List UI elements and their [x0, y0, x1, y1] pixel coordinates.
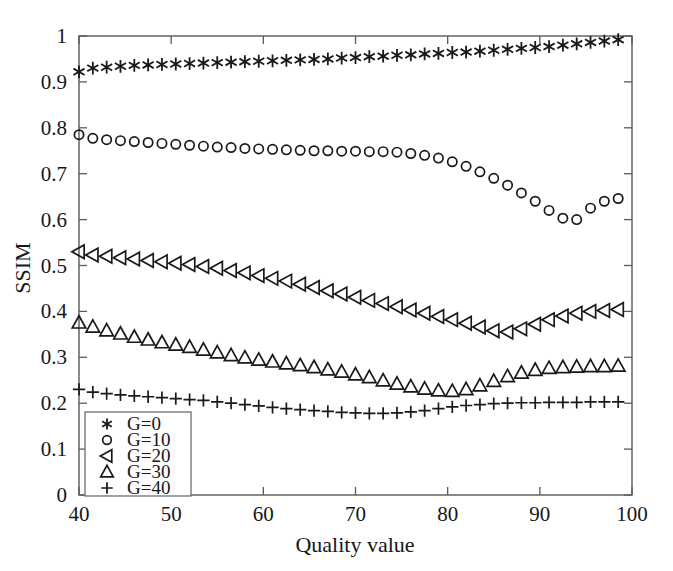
data-point-marker [597, 304, 609, 318]
data-series-layer [72, 33, 625, 419]
x-axis-title: Quality value [295, 532, 414, 557]
data-point-marker [488, 44, 499, 57]
y-tick-label: 0.6 [41, 208, 67, 232]
data-point-marker [114, 389, 126, 401]
data-point-marker [101, 61, 112, 74]
data-point-marker [461, 46, 472, 59]
data-point-marker [404, 303, 416, 317]
data-point-marker [459, 382, 473, 394]
data-point-marker [101, 387, 113, 399]
data-point-marker [198, 57, 209, 70]
data-point-marker [404, 380, 418, 392]
data-point-marker [155, 255, 167, 269]
data-point-marker [141, 254, 153, 268]
data-point-marker [348, 290, 360, 304]
x-tick-label: 70 [345, 502, 366, 526]
data-point-marker [365, 147, 374, 156]
data-point-marker [598, 359, 612, 371]
data-point-marker [268, 145, 277, 154]
data-point-marker [517, 188, 526, 197]
data-point-marker [487, 374, 501, 386]
x-tick-label: 90 [529, 502, 550, 526]
data-point-marker [143, 138, 152, 147]
data-point-marker [350, 51, 361, 64]
data-point-marker [488, 398, 500, 410]
data-point-marker [376, 297, 388, 311]
data-point-marker [378, 50, 389, 63]
data-point-marker [600, 197, 609, 206]
y-tick-label: 0.9 [41, 70, 67, 94]
data-point-marker [613, 33, 624, 46]
data-point-marker [542, 313, 554, 327]
y-tick-label: 0.2 [41, 391, 67, 415]
data-point-marker [211, 396, 223, 408]
data-point-marker [182, 258, 194, 272]
data-point-marker [557, 396, 569, 408]
data-point-marker [377, 407, 389, 419]
data-point-marker [267, 54, 278, 67]
data-point-marker [279, 274, 291, 288]
data-point-marker [335, 287, 347, 301]
data-point-marker [225, 397, 237, 409]
data-point-marker [141, 333, 155, 345]
data-point-marker [433, 47, 444, 60]
data-point-marker [240, 144, 249, 153]
data-point-marker [474, 45, 485, 58]
y-tick-label: 0.8 [41, 116, 67, 140]
data-point-marker [337, 147, 346, 156]
data-point-marker [379, 147, 388, 156]
data-point-marker [321, 284, 333, 298]
data-point-marker [474, 398, 486, 410]
data-point-marker [86, 248, 98, 262]
data-point-marker [556, 309, 568, 323]
data-point-marker [309, 146, 318, 155]
data-point-marker [128, 330, 142, 342]
data-point-marker [418, 306, 430, 320]
data-point-marker [390, 377, 404, 389]
data-point-marker [336, 52, 347, 65]
data-point-marker [254, 144, 263, 153]
data-point-marker [322, 405, 334, 417]
data-point-marker [308, 404, 320, 416]
y-tick-label: 0.3 [41, 345, 67, 369]
data-point-marker [501, 369, 515, 381]
data-point-marker [127, 252, 139, 266]
data-point-marker [307, 281, 319, 295]
data-point-marker [473, 320, 485, 334]
y-tick-label: 0 [57, 483, 68, 507]
data-point-marker [446, 401, 458, 413]
data-point-marker [349, 368, 363, 380]
legend-label-g-40: G=40 [127, 477, 170, 498]
data-point-marker [130, 137, 139, 146]
data-point-marker [544, 40, 555, 53]
data-point-marker [253, 400, 265, 412]
data-point-marker [169, 256, 181, 270]
data-point-marker [171, 140, 180, 149]
data-point-marker [114, 327, 128, 339]
data-point-marker [571, 37, 582, 50]
data-point-marker [362, 294, 374, 308]
data-point-marker [500, 325, 512, 339]
data-point-marker [570, 306, 582, 320]
data-point-marker [418, 404, 430, 416]
data-point-marker [530, 41, 541, 54]
data-point-marker [516, 42, 527, 55]
data-point-marker [281, 54, 292, 67]
data-point-marker [196, 260, 208, 274]
data-point-marker [212, 56, 223, 69]
data-point-marker [531, 197, 540, 206]
data-point-marker [321, 363, 335, 375]
y-tick-label: 0.5 [41, 254, 67, 278]
data-point-marker [420, 151, 429, 160]
data-point-marker [335, 365, 349, 377]
data-point-marker [586, 203, 595, 212]
data-point-marker [391, 407, 403, 419]
data-point-marker [570, 360, 584, 372]
data-point-marker [598, 396, 610, 408]
data-point-marker [405, 406, 417, 418]
data-point-marker [572, 215, 581, 224]
data-point-marker [282, 145, 291, 154]
data-point-marker [253, 55, 264, 68]
data-point-marker [86, 320, 100, 332]
data-point-marker [611, 359, 625, 371]
